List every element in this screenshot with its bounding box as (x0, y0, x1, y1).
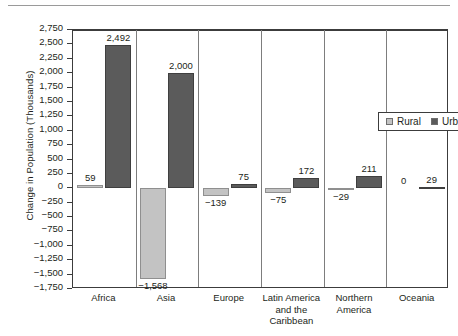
x-axis-category-label: Latin Americaand theCaribbean (260, 292, 323, 327)
y-axis-title: Change in Population (Thousands) (24, 31, 35, 261)
y-axis-tick-label: −1,250 (34, 252, 63, 263)
bar-value-label: −1,568 (129, 280, 177, 291)
x-axis-category-label: Oceania (385, 292, 448, 304)
bar-rural (140, 188, 166, 278)
bar-urban (168, 73, 194, 188)
x-axis-category-label: NorthernAmerica (323, 292, 386, 315)
zero-baseline (73, 30, 447, 31)
y-axis-tick-label: −250 (42, 195, 63, 206)
y-axis-tick-label: 2,750 (39, 22, 63, 33)
legend-item-rural: Rural (386, 116, 421, 127)
category-separator (386, 30, 387, 287)
category-label-line: Latin America (260, 292, 323, 304)
legend-label-rural: Rural (397, 116, 421, 127)
y-axis-tick-label: 1,750 (39, 80, 63, 91)
category-separator (324, 30, 325, 287)
chart-legend: Rural Urban (378, 112, 458, 131)
category-label-line: Northern (323, 292, 386, 304)
bar-urban (356, 176, 382, 188)
y-axis-tick-label: 500 (47, 152, 63, 163)
category-label-line: and the (260, 304, 323, 316)
category-separator (261, 30, 262, 287)
legend-item-urban: Urban (431, 116, 458, 127)
category-label-line: Caribbean (260, 315, 323, 327)
y-axis-tick-label: −1,000 (34, 238, 63, 249)
bar-urban (293, 178, 319, 188)
y-axis-tick-label: 0 (58, 180, 63, 191)
top-divider-rule (8, 5, 450, 6)
legend-label-urban: Urban (442, 116, 458, 127)
bar-value-label: 172 (282, 165, 330, 176)
plot-area: 59−1,568−139−75−2902,4922,0007517221129 … (72, 29, 448, 288)
bar-value-label: 2,000 (157, 60, 205, 71)
bar-urban (419, 187, 445, 189)
bar-value-label: 211 (345, 163, 393, 174)
legend-swatch-urban-icon (431, 118, 438, 125)
y-axis-tick-mark (67, 288, 72, 289)
chart-figure: Change in Population (Thousands) 2,7502,… (0, 0, 458, 336)
bar-rural (203, 188, 229, 196)
x-axis-category-label: Europe (197, 292, 260, 304)
category-label-line: America (323, 304, 386, 316)
bar-value-label: −75 (254, 194, 302, 205)
bar-rural (265, 188, 291, 192)
y-axis-tick-label: −750 (42, 223, 63, 234)
legend-swatch-rural-icon (386, 118, 393, 125)
bar-value-label: 75 (220, 171, 268, 182)
bar-value-label: 2,492 (94, 32, 142, 43)
y-axis-tick-label: 2,500 (39, 36, 63, 47)
category-label-line: Oceania (385, 292, 448, 304)
x-axis-category-label: Asia (135, 292, 198, 304)
y-axis-tick-label: −500 (42, 209, 63, 220)
x-axis-category-label: Africa (72, 292, 135, 304)
y-axis-tick-label: −1,500 (34, 267, 63, 278)
y-axis-tick-label: 1,500 (39, 94, 63, 105)
category-label-line: Europe (197, 292, 260, 304)
category-label-line: Asia (135, 292, 198, 304)
bar-urban (231, 184, 257, 188)
category-separator (136, 30, 137, 287)
y-axis-tick-label: −1,750 (34, 281, 63, 292)
y-axis-tick-label: 2,250 (39, 51, 63, 62)
bar-value-label: 29 (408, 174, 456, 185)
y-axis-tick-label: 1,250 (39, 108, 63, 119)
y-axis-tick-label: 1,000 (39, 123, 63, 134)
bar-value-label: −29 (317, 191, 365, 202)
category-label-line: Africa (72, 292, 135, 304)
bar-value-label: −139 (192, 197, 240, 208)
y-axis-tick-label: 2,000 (39, 65, 63, 76)
y-axis-tick-label: 750 (47, 137, 63, 148)
y-axis-tick-label: 250 (47, 166, 63, 177)
bar-urban (105, 45, 131, 188)
bar-rural (77, 185, 103, 188)
